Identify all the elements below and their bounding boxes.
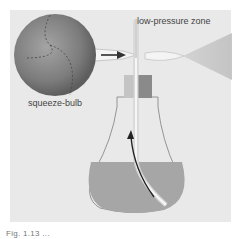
atomizer-diagram — [0, 0, 236, 239]
low-pressure-zone-label: low-pressure zone — [137, 16, 211, 26]
squeeze-bulb-label: squeeze-bulb — [28, 98, 82, 108]
figure-caption: Fig. 1.13 ... — [6, 229, 50, 238]
squeeze-bulb — [14, 14, 96, 96]
spray-cone — [183, 33, 232, 80]
